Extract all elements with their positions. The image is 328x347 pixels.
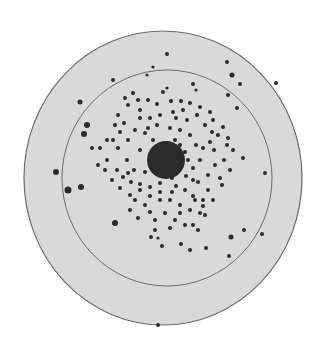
- colony-dot: [160, 244, 164, 248]
- colony-dot: [229, 235, 234, 240]
- colony-dot: [165, 52, 169, 56]
- colony-dot: [198, 211, 202, 215]
- colony-dot: [230, 73, 235, 78]
- colony-dot: [238, 82, 242, 86]
- colony-dot: [143, 170, 147, 174]
- colony-dot: [228, 168, 232, 172]
- colony-dot: [111, 138, 115, 142]
- colony-dot: [122, 121, 126, 125]
- colony-dot: [112, 220, 118, 226]
- colony-dot: [149, 235, 153, 239]
- colony-dot: [191, 82, 195, 86]
- colony-dot: [178, 203, 182, 207]
- colony-dot: [260, 232, 264, 236]
- colony-dot: [196, 180, 200, 184]
- colony-dot: [227, 254, 231, 258]
- colony-dot: [173, 138, 177, 142]
- colony-dot: [155, 123, 159, 127]
- colony-dot: [53, 169, 59, 175]
- colony-dot: [145, 73, 148, 76]
- colony-dot: [125, 158, 129, 162]
- colony-dot: [151, 138, 155, 142]
- colony-dot: [194, 88, 197, 91]
- colony-dot: [138, 148, 142, 152]
- colony-dot: [188, 248, 192, 252]
- colony-dot: [203, 123, 207, 127]
- colony-dot: [84, 122, 90, 128]
- colony-dot: [174, 184, 178, 188]
- colony-dot: [126, 138, 130, 142]
- colony-dot: [178, 128, 182, 132]
- colony-dot: [153, 218, 157, 222]
- colony-dot: [98, 146, 102, 150]
- colony-dot: [206, 173, 210, 177]
- colony-dot: [138, 188, 142, 192]
- colony-dot: [158, 190, 162, 194]
- petri-dish-illustration: [0, 0, 328, 347]
- colony-dot: [225, 143, 229, 147]
- colony-dot: [156, 236, 159, 239]
- colony-dot: [204, 246, 208, 250]
- colony-dot: [226, 93, 230, 97]
- colony-dot: [208, 110, 212, 114]
- colony-dot: [171, 110, 175, 114]
- colony-dot: [196, 228, 200, 232]
- colony-dot: [103, 168, 107, 172]
- colony-dot: [213, 163, 217, 167]
- colony-dot: [201, 204, 205, 208]
- colony-dot: [148, 116, 152, 120]
- colony-dot: [186, 158, 190, 162]
- colony-dot: [195, 113, 199, 117]
- colony-dot: [143, 131, 147, 135]
- colony-dot: [235, 106, 239, 110]
- colony-dot: [191, 178, 195, 182]
- colony-dot: [174, 116, 178, 120]
- colony-dot: [148, 185, 152, 189]
- colony-dot: [191, 194, 195, 198]
- colony-dot: [138, 108, 142, 112]
- colony-dot: [173, 218, 177, 222]
- central-mass: [147, 141, 185, 179]
- colony-dot: [128, 193, 132, 197]
- colony-dot: [218, 176, 222, 180]
- colony-dot: [151, 65, 154, 68]
- colony-dot: [121, 175, 125, 179]
- colony-dot: [133, 128, 137, 132]
- colony-dot: [221, 125, 225, 129]
- colony-dot: [211, 118, 215, 122]
- colony-dot: [263, 171, 267, 175]
- colony-dot: [131, 91, 135, 95]
- colony-dot: [193, 198, 197, 202]
- colony-dot: [78, 184, 84, 190]
- colony-dot: [118, 186, 122, 190]
- colony-dot: [118, 130, 122, 134]
- colony-dot: [198, 158, 202, 162]
- colony-dot: [116, 146, 120, 150]
- colony-dot: [226, 136, 230, 140]
- colony-dot: [133, 198, 137, 202]
- colony-dot: [136, 216, 140, 220]
- colony-dot: [168, 226, 172, 230]
- colony-dot: [179, 99, 183, 103]
- colony-dot: [129, 180, 133, 184]
- colony-dot: [158, 181, 162, 185]
- colony-dot: [201, 198, 205, 202]
- colony-dot: [90, 146, 94, 150]
- colony-dot: [136, 98, 140, 102]
- colony-dot: [115, 168, 119, 172]
- colony-dot: [201, 146, 205, 150]
- colony-dot: [138, 182, 142, 186]
- colony-dot: [203, 213, 207, 217]
- colony-dot: [123, 96, 127, 100]
- colony-dot: [163, 211, 167, 215]
- colony-dot: [208, 140, 212, 144]
- colony-dot: [188, 133, 192, 137]
- colony-dot: [168, 198, 172, 202]
- colony-dot: [274, 81, 278, 85]
- colony-dot: [212, 148, 216, 152]
- colony-dot: [241, 156, 245, 160]
- colony-dot: [138, 116, 142, 120]
- colony-dot: [198, 105, 202, 109]
- colony-dot: [168, 126, 172, 130]
- colony-dot: [225, 60, 229, 64]
